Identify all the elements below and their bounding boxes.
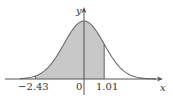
y-axis-label: y: [75, 5, 82, 16]
tick-label-right: 1.01: [96, 81, 118, 92]
x-axis-label: x: [160, 82, 166, 93]
tick-label-left: −2.43: [18, 81, 49, 92]
normal-curve-diagram: y x −2.43 0 1.01: [0, 0, 173, 98]
tick-label-zero: 0: [76, 81, 82, 92]
